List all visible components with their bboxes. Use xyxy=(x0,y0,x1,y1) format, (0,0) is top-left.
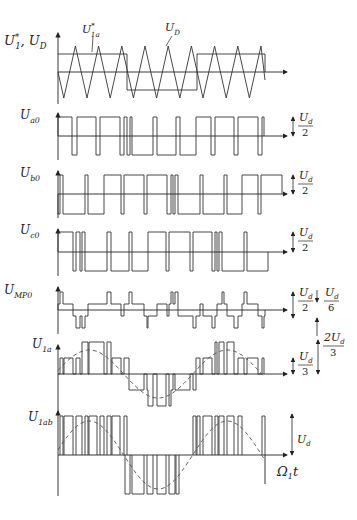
axis-label: Ub0 xyxy=(20,166,40,183)
u1ab-negative-pulse xyxy=(169,455,175,494)
u1ab-positive-pulse xyxy=(89,416,97,455)
axis-label: Uc0 xyxy=(20,223,39,240)
u1ab-positive-pulse xyxy=(60,416,63,455)
u1ab-positive-pulse xyxy=(100,416,104,455)
scale-fraction-numerator: Ud xyxy=(299,286,313,301)
axis-label: UD xyxy=(165,21,180,37)
scale-fraction-numerator: Ud xyxy=(299,226,313,241)
u1ab-negative-pulse xyxy=(132,455,144,494)
uc0-pwm-wave xyxy=(58,232,268,271)
panel-ua0: Ua0Ud2 xyxy=(20,108,313,160)
u1ab-positive-pulse xyxy=(262,416,265,455)
u1ab-positive-pulse xyxy=(238,416,242,455)
panel-u1ab: U1abUdΩ1t xyxy=(28,410,311,496)
u1ab-positive-pulse xyxy=(203,416,212,455)
u1ab-positive-pulse xyxy=(197,416,200,455)
scale-fraction-numerator: 2Ud xyxy=(323,331,345,346)
axis-label: U*1a xyxy=(82,21,100,39)
axis-label: UMP0 xyxy=(4,283,32,300)
scale-fraction-numerator: Ud xyxy=(299,169,313,184)
scale-fraction-numerator: Ud xyxy=(325,286,339,301)
axis-label: U1ab xyxy=(28,410,53,427)
axis-label: U*1, UD xyxy=(4,32,47,51)
scale-fraction-denominator: 6 xyxy=(328,302,334,313)
time-axis-label: Ω1t xyxy=(276,464,299,481)
scale-fraction-denominator: 3 xyxy=(330,347,336,358)
scale-fraction-denominator: 2 xyxy=(302,185,308,196)
ub0-pwm-wave xyxy=(58,175,282,214)
scale-fraction-denominator: 2 xyxy=(302,127,308,138)
axis-label: U1a xyxy=(32,337,52,354)
panel-reference-carrier: U*1, UDU*1aUD xyxy=(4,21,287,104)
u1ab-positive-pulse xyxy=(215,416,218,455)
u1ab-positive-pulse xyxy=(193,416,196,455)
panel-u1a: U1aUd32Ud3 xyxy=(32,331,345,412)
u1ab-negative-pulse xyxy=(176,455,179,494)
callout-leader xyxy=(166,36,172,46)
u1ab-positive-pulse xyxy=(85,416,88,455)
panel-ump0: UMP0Ud2Ud6 xyxy=(4,283,339,336)
panel-uc0: Uc0Ud2 xyxy=(20,223,313,276)
scale-fraction-denominator: 3 xyxy=(302,366,308,377)
panel-ub0: Ub0Ud2 xyxy=(20,166,313,218)
scale-fraction-denominator: 2 xyxy=(302,242,308,253)
axis-label: Ua0 xyxy=(20,108,40,125)
scale-fraction-numerator: Ud xyxy=(299,111,313,126)
u1ab-negative-pulse xyxy=(147,455,153,494)
scale-label-ud: Ud xyxy=(297,433,311,448)
u1ab-positive-pulse xyxy=(76,416,82,455)
scale-fraction-denominator: 2 xyxy=(302,302,308,313)
pwm-waveform-figure: U*1, UDU*1aUD Ua0Ud2 Ub0Ud2 Uc0Ud2 UMP0U… xyxy=(0,0,357,520)
u1ab-positive-pulse xyxy=(112,416,120,455)
u1ab-positive-pulse xyxy=(124,416,127,455)
scale-fraction-numerator: Ud xyxy=(299,350,313,365)
